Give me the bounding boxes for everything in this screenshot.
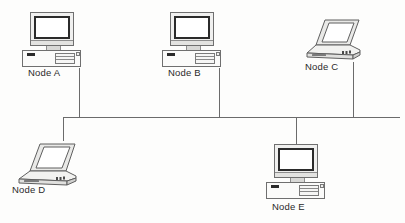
laptop-port-vents xyxy=(342,51,351,55)
monitor-screen xyxy=(278,148,314,171)
drive-bay-line xyxy=(196,59,214,60)
laptop-keyboard-keys xyxy=(312,54,326,56)
laptop-computer-icon xyxy=(12,138,82,186)
drive-bay-line xyxy=(56,56,74,57)
drive-bay-line xyxy=(196,56,214,57)
monitor-chin xyxy=(31,40,73,45)
network-topology-diagram: Node A Node B xyxy=(0,0,405,223)
laptop-computer-icon xyxy=(303,14,369,60)
monitor-screen xyxy=(174,16,210,39)
drive-bay-line xyxy=(300,188,318,189)
drive-bay-line xyxy=(56,59,74,60)
laptop-keyboard-keys xyxy=(24,180,39,182)
laptop-port-vents xyxy=(56,177,65,181)
node-a-label: Node A xyxy=(28,67,60,78)
floppy-slot xyxy=(167,53,175,56)
monitor-chin xyxy=(275,172,317,177)
node-c-label: Node C xyxy=(305,61,338,72)
power-indicator xyxy=(76,52,80,56)
node-e-label: Node E xyxy=(272,201,305,212)
drive-bay-line xyxy=(300,191,318,192)
power-indicator xyxy=(320,184,324,188)
power-indicator xyxy=(216,52,220,56)
monitor-chin xyxy=(171,40,213,45)
floppy-slot xyxy=(271,185,279,188)
monitor-screen xyxy=(34,16,70,39)
node-d-label: Node D xyxy=(12,184,45,195)
floppy-slot xyxy=(27,53,35,56)
node-b-label: Node B xyxy=(168,67,201,78)
